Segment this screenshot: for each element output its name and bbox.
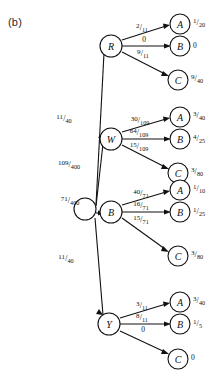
edge-label-root-B: 71/400 [61, 196, 80, 206]
leaf-value-B-C: 3/80 [191, 250, 203, 260]
arrowhead-B-A [163, 190, 170, 196]
leaf-value-Y-A: 3/40 [193, 296, 205, 306]
leaf-node-B-A-label: A [176, 185, 184, 196]
arrowhead-R-C [161, 71, 169, 76]
leaf-value-W-C: 3/80 [191, 167, 203, 177]
leaf-node-Y-A-label: A [176, 297, 184, 308]
node-B-label: B [108, 207, 114, 218]
edge-label-root-W: 109/400 [58, 160, 80, 170]
leaf-node-R-C-label: C [175, 75, 182, 86]
leaf-value-B-A: 1/10 [193, 184, 205, 194]
probability-tree-figure: (b) [0, 0, 210, 386]
edge-label-R-C: 9/11 [137, 49, 149, 59]
leaf-value-R-C: 9/40 [191, 74, 203, 84]
edge-label-R-A: 2/11 [136, 23, 148, 33]
leaf-node-W-A-label: A [176, 112, 184, 123]
arrowhead-W-A [163, 117, 170, 123]
leaf-node-B-C-label: C [175, 251, 182, 262]
edge-root-to-R [96, 53, 104, 205]
edge-label-Y-C: 0 [141, 326, 145, 334]
edge-label-W-C: 15/109 [130, 142, 149, 152]
arrowhead-Y-A [163, 302, 170, 308]
leaf-value-B-B: 1/25 [193, 207, 205, 217]
leaf-node-B-B-label: B [177, 207, 183, 218]
leaf-node-R-B-label: B [177, 41, 183, 52]
edge-label-Y-A: 3/11 [136, 301, 148, 311]
edge-label-R-B: 0 [142, 36, 146, 44]
edge-label-W-A: 30/109 [131, 116, 150, 126]
leaf-node-W-C-label: C [175, 168, 182, 179]
leaf-node-Y-B-label: B [177, 319, 183, 330]
leaf-node-Y-C-label: C [175, 354, 182, 365]
edge-label-B-A: 40/71 [133, 189, 149, 199]
node-R-label: R [107, 41, 114, 52]
leaf-value-R-B: 0 [193, 42, 197, 50]
leaf-node-W-B-label: B [177, 134, 183, 145]
edge-label-root-R: 11/40 [56, 114, 71, 124]
edge-label-B-B: 16/71 [133, 201, 149, 211]
arrowhead-root-Y [96, 309, 103, 315]
edge-root-to-Y [95, 218, 103, 315]
edge-label-B-C: 15/71 [133, 215, 149, 225]
leaf-value-Y-B: 1/5 [193, 319, 202, 329]
arrowhead-W-C [161, 164, 169, 169]
edge-label-Y-B: 8/11 [136, 313, 148, 323]
leaf-value-Y-C: 0 [191, 354, 195, 362]
edge-label-root-Y: 11/40 [58, 254, 73, 264]
edge-label-W-B: 64/109 [130, 128, 149, 138]
leaf-value-W-A: 3/40 [193, 111, 205, 121]
arrowhead-Y-C [161, 349, 169, 354]
tree-diagram-canvas: R W B Y A B C A B C A B C A B C [0, 0, 210, 386]
leaf-value-R-A: 1/20 [193, 18, 205, 28]
leaf-value-W-B: 4/25 [193, 134, 205, 144]
leaf-node-R-A-label: A [176, 19, 184, 30]
arrowhead-R-A [163, 24, 170, 30]
